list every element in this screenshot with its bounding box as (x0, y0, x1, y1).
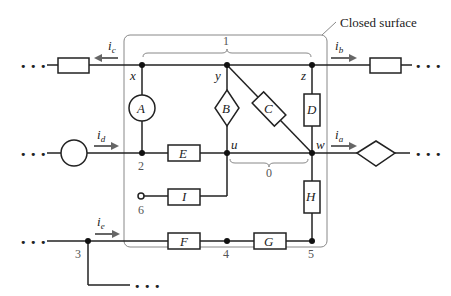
ellipsis-top-left: • • • (20, 60, 46, 73)
current-ib-arrow (331, 54, 357, 62)
closed-surface-label: Closed surface (340, 15, 417, 30)
current-ib-label: ib (335, 38, 344, 55)
current-ia-label: ia (335, 127, 344, 144)
node-3-label: 3 (75, 247, 81, 261)
svg-text:A: A (136, 101, 145, 116)
node-6-label: 6 (138, 203, 144, 217)
brace-1 (143, 49, 311, 57)
ellipsis-bottom-left: • • • (20, 236, 46, 249)
current-ie-arrow (95, 230, 120, 238)
node-z-label: z (300, 68, 306, 83)
brace-0-label: 0 (266, 166, 272, 180)
ellipsis-middle-left: • • • (20, 148, 46, 161)
closed-surface-leader (322, 22, 336, 35)
svg-text:E: E (178, 146, 187, 161)
svg-text:H: H (305, 189, 316, 204)
svg-text:F: F (179, 234, 189, 249)
current-ic-label: ic (108, 38, 116, 55)
current-ia-arrow (331, 142, 357, 150)
circuit-diagram: Closed surface • • • • • • 1 A B C D E •… (0, 0, 451, 296)
current-id-label: id (97, 127, 106, 144)
node-x-label: x (129, 68, 136, 83)
node-2-label: 2 (138, 159, 144, 173)
svg-text:I: I (181, 189, 187, 204)
source-circle (61, 140, 87, 166)
ellipsis-top-right: • • • (415, 60, 441, 73)
ellipsis-middle-right: • • • (415, 148, 441, 161)
brace-1-label: 1 (223, 34, 229, 48)
current-ic-arrow (94, 54, 118, 62)
node-w-label: w (316, 137, 325, 152)
ellipsis-bottom: • • • (134, 280, 160, 293)
terminal-6 (138, 193, 144, 199)
node-y-label: y (213, 68, 221, 83)
svg-text:B: B (222, 101, 230, 116)
node-4-label: 4 (223, 247, 229, 261)
svg-text:C: C (264, 101, 273, 116)
right-top-resistor (370, 58, 401, 73)
current-id-arrow (94, 142, 119, 150)
dependent-source-diamond (357, 141, 395, 166)
node-5-label: 5 (308, 247, 314, 261)
svg-text:G: G (264, 234, 274, 249)
current-ie-label: ie (97, 214, 105, 231)
node-u-label: u (231, 137, 238, 152)
svg-text:D: D (306, 102, 317, 117)
left-top-resistor (58, 58, 89, 73)
